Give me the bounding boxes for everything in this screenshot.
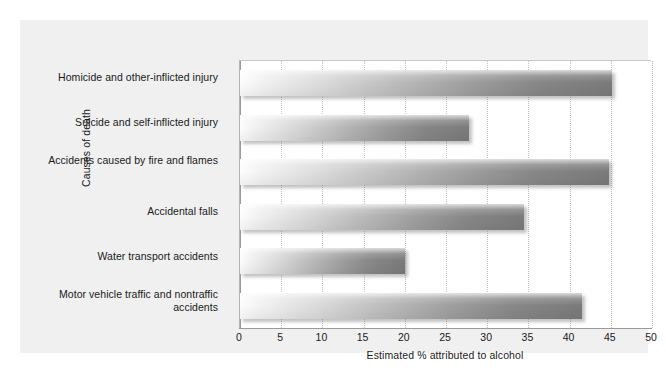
category-label-suicide: Suicide and self-inflicted injury [48, 116, 218, 129]
x-tick-15: 15 [348, 331, 378, 343]
chart-frame: Causes of death Homicide and other-infli… [20, 20, 648, 353]
x-tick-35: 35 [512, 331, 542, 343]
category-label-homicide: Homicide and other-inflicted injury [48, 71, 218, 84]
category-label-motor-vehicle: Motor vehicle traffic and nontraffic acc… [48, 288, 218, 314]
gridline-5 [281, 61, 282, 328]
category-axis-labels: Homicide and other-inflicted injury Suic… [48, 60, 218, 328]
bar-fire-flames[interactable] [240, 159, 609, 185]
bar-suicide[interactable] [240, 115, 469, 141]
gridline-10 [322, 61, 323, 328]
x-tick-45: 45 [595, 331, 625, 343]
gridline-40 [570, 61, 571, 328]
bar-falls[interactable] [240, 204, 524, 230]
x-tick-25: 25 [430, 331, 460, 343]
category-label-fire-flames: Accidents caused by fire and flames [48, 154, 218, 167]
x-tick-40: 40 [554, 331, 584, 343]
bar-water[interactable] [240, 248, 405, 274]
gridline-45 [611, 61, 612, 328]
gridline-20 [405, 61, 406, 328]
x-tick-20: 20 [389, 331, 419, 343]
bar-homicide[interactable] [240, 70, 612, 96]
gridline-50 [652, 61, 653, 328]
plot-area [239, 60, 651, 328]
x-tick-10: 10 [306, 331, 336, 343]
gridline-35 [528, 61, 529, 328]
gridline-25 [446, 61, 447, 328]
gridline-30 [487, 61, 488, 328]
x-tick-30: 30 [471, 331, 501, 343]
x-tick-5: 5 [265, 331, 295, 343]
gridline-0 [240, 61, 241, 328]
x-axis-title: Estimated % attributed to alcohol [239, 349, 651, 361]
x-tick-50: 50 [636, 331, 666, 343]
x-axis-line [239, 328, 652, 329]
bar-motor-vehicle[interactable] [240, 293, 582, 319]
category-label-falls: Accidental falls [48, 205, 218, 218]
gridline-15 [364, 61, 365, 328]
category-label-water: Water transport accidents [48, 250, 218, 263]
x-tick-0: 0 [224, 331, 254, 343]
